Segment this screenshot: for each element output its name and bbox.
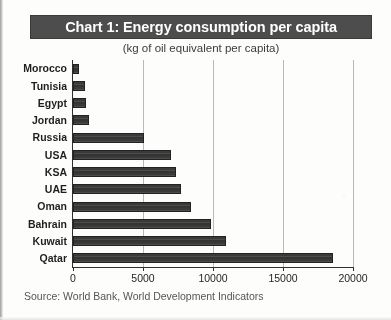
category-label: Bahrain — [28, 219, 67, 230]
chart-subtitle: (kg of oil equivalent per capita) — [30, 42, 372, 54]
chart-title-band: Chart 1: Energy consumption per capita — [30, 15, 372, 39]
bar — [73, 150, 171, 160]
scan-edge-left — [0, 0, 3, 320]
chart-title: Chart 1: Energy consumption per capita — [65, 20, 337, 35]
x-axis-tick-label: 15000 — [268, 272, 297, 284]
gridline — [353, 60, 354, 267]
bar-row: Jordan — [73, 112, 89, 129]
bar-row: UAE — [73, 181, 181, 198]
bar-row: USA — [73, 146, 171, 163]
bar — [73, 184, 181, 194]
plot-area: 05000100001500020000MoroccoTunisiaEgyptJ… — [72, 60, 353, 268]
category-label: Kuwait — [33, 236, 67, 247]
bar — [73, 219, 211, 229]
category-label: Morocco — [23, 63, 67, 74]
bar — [73, 167, 176, 177]
bar — [73, 98, 86, 108]
x-axis-tick — [283, 267, 284, 271]
bar-row: Bahrain — [73, 215, 211, 232]
source-note: Source: World Bank, World Development In… — [24, 290, 263, 302]
bar-row: Egypt — [73, 95, 86, 112]
category-label: UAE — [45, 184, 67, 195]
category-label: Egypt — [38, 98, 67, 109]
category-label: USA — [45, 150, 67, 161]
bar — [73, 202, 191, 212]
bar-row: Kuwait — [73, 233, 226, 250]
category-label: KSA — [45, 167, 67, 178]
category-label: Russia — [33, 132, 67, 143]
bar-row: Oman — [73, 198, 191, 215]
x-axis-tick — [73, 267, 74, 271]
category-label: Tunisia — [31, 81, 67, 92]
gridline — [283, 60, 284, 267]
x-axis-tick — [353, 267, 354, 271]
category-label: Oman — [37, 201, 67, 212]
category-label: Qatar — [40, 253, 67, 264]
bar-row: Qatar — [73, 250, 333, 267]
bar-row: Morocco — [73, 60, 79, 77]
bar-row: KSA — [73, 164, 176, 181]
x-axis-tick-label: 0 — [70, 272, 76, 284]
x-axis-tick-label: 10000 — [198, 272, 227, 284]
bar — [73, 81, 85, 91]
bar-row: Russia — [73, 129, 144, 146]
bar — [73, 253, 333, 263]
bar — [73, 64, 79, 74]
bar-row: Tunisia — [73, 77, 85, 94]
category-label: Jordan — [32, 115, 67, 126]
x-axis-tick-label: 5000 — [131, 272, 154, 284]
bar — [73, 115, 89, 125]
x-axis-tick — [143, 267, 144, 271]
chart-page: Chart 1: Energy consumption per capita (… — [0, 0, 391, 320]
x-axis-tick-label: 20000 — [338, 272, 367, 284]
bar — [73, 133, 144, 143]
x-axis-tick — [213, 267, 214, 271]
bar — [73, 236, 226, 246]
